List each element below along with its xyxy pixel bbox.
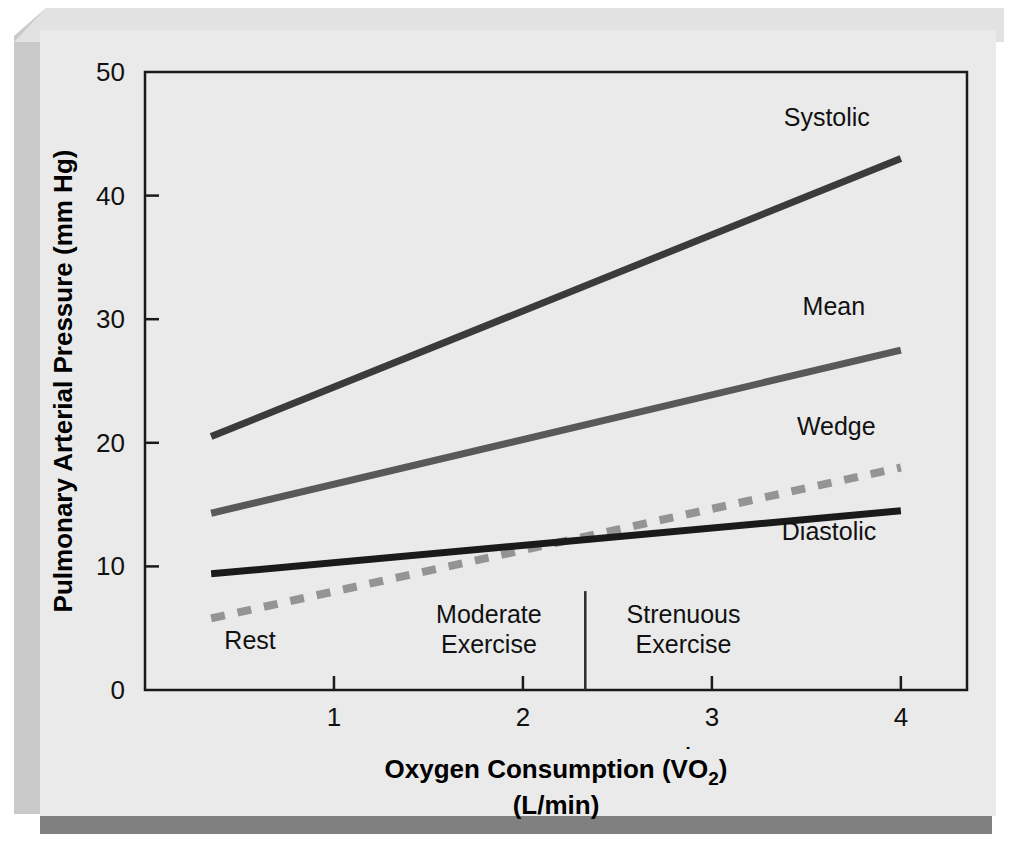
y-axis-tick-label: 50 <box>96 57 125 87</box>
x-axis-tick-label: 4 <box>894 702 908 732</box>
y-axis-tick-label: 10 <box>96 551 125 581</box>
y-axis-tick-label: 40 <box>96 181 125 211</box>
series-label-wedge: Wedge <box>797 412 876 440</box>
series-label-systolic: Systolic <box>784 103 870 131</box>
y-axis-tick-label: 0 <box>111 675 125 705</box>
series-label-diastolic: Diastolic <box>782 517 876 545</box>
chart-svg: 010203040501234 RestModerateExerciseStre… <box>0 0 1028 864</box>
axis-title-group: Pulmonary Arterial Pressure (mm Hg)Oxyge… <box>48 150 727 820</box>
y-axis-title: Pulmonary Arterial Pressure (mm Hg) <box>48 150 78 613</box>
x-axis-tick-label: 3 <box>705 702 719 732</box>
annotation-strenuous-exercise: StrenuousExercise <box>627 600 741 658</box>
figure-root: 010203040501234 RestModerateExerciseStre… <box>0 0 1028 864</box>
annotation-moderate-exercise: ModerateExercise <box>436 600 542 658</box>
plot-frame <box>145 72 967 690</box>
series-group <box>211 159 901 619</box>
x-axis-tick-label: 2 <box>516 702 530 732</box>
chart-area: 010203040501234 RestModerateExerciseStre… <box>0 0 1028 864</box>
x-axis-tick-label: 1 <box>327 702 341 732</box>
x-axis-title-units: (L/min) <box>513 790 600 820</box>
annotation-rest: Rest <box>224 626 275 654</box>
series-label-mean: Mean <box>803 292 866 320</box>
annotation-group: RestModerateExerciseStrenuousExercise <box>224 591 740 690</box>
y-axis-tick-label: 30 <box>96 304 125 334</box>
y-axis-tick-label: 20 <box>96 428 125 458</box>
series-line-systolic <box>211 159 901 437</box>
x-axis-title: Oxygen Consumption (V̇O2) <box>385 746 728 789</box>
